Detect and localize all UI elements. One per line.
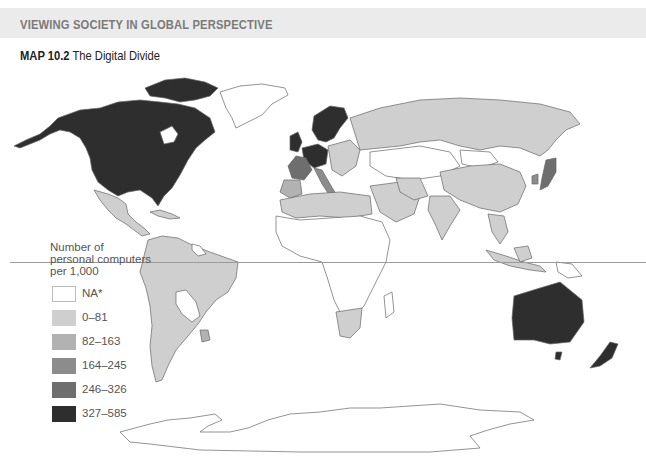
- map-legend: Number of personal computers per 1,000 N…: [50, 241, 190, 277]
- legend-label: 82–163: [82, 335, 120, 347]
- iberia: [280, 180, 302, 198]
- legend-swatch: [52, 382, 76, 398]
- uk-ireland: [290, 132, 302, 152]
- legend-swatch: [52, 406, 76, 422]
- eastern-europe: [328, 140, 360, 176]
- legend-label: 164–245: [82, 359, 127, 371]
- new-zealand: [590, 342, 618, 368]
- legend-title-line: Number of: [50, 241, 190, 253]
- legend-label: 0–81: [82, 311, 108, 323]
- legend-title-line: personal computers: [50, 253, 190, 265]
- antarctica: [120, 404, 534, 452]
- india: [428, 196, 460, 240]
- madagascar: [384, 292, 394, 318]
- papua: [556, 262, 582, 278]
- japan: [540, 158, 556, 190]
- legend-title: Number of personal computers per 1,000: [50, 241, 190, 277]
- legend-label: 327–585: [82, 407, 127, 419]
- legend-title-line: per 1,000: [50, 265, 190, 277]
- legend-swatch: [52, 358, 76, 374]
- australia: [512, 282, 584, 344]
- uruguay: [200, 330, 210, 342]
- scandinavia: [312, 106, 348, 142]
- legend-label: 246–326: [82, 383, 127, 395]
- tasmania: [555, 352, 562, 360]
- legend-swatch: [52, 310, 76, 326]
- legend-label: NA*: [82, 287, 102, 299]
- southeast-asia: [488, 214, 508, 244]
- italy: [314, 168, 336, 196]
- legend-swatch: [52, 334, 76, 350]
- sub-saharan-africa: [276, 216, 390, 316]
- canada-arctic-islands: [145, 78, 218, 102]
- caribbean: [150, 210, 180, 219]
- legend-swatch: [52, 286, 76, 302]
- greenland: [220, 84, 288, 128]
- north-america: [14, 100, 215, 206]
- south-korea: [532, 174, 538, 184]
- russia: [350, 98, 580, 156]
- south-africa: [336, 308, 362, 338]
- mexico-central-america: [94, 190, 150, 236]
